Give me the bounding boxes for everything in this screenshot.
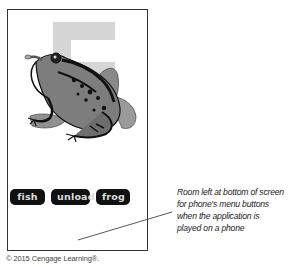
annotation-line: Room left at bottom of screen: [177, 186, 289, 198]
annotation-line: for phone's menu buttons: [177, 198, 289, 210]
annotation-line: played on a phone: [177, 222, 289, 234]
copyright-notice: © 2015 Cengage Learning®.: [6, 254, 99, 263]
annotation-line: when the application is: [177, 210, 289, 222]
menu-space-annotation: Room left at bottom of screen for phone'…: [177, 186, 289, 234]
